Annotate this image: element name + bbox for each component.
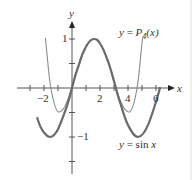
x-tick-label-neg2: −2 [37, 93, 49, 104]
y-axis-arrow-icon [69, 21, 75, 28]
x-tick-label-4: 4 [125, 93, 131, 104]
x-axis-label: x [177, 83, 182, 94]
sin-annotation: y = sin x [119, 139, 156, 150]
sin-var: x [151, 138, 156, 150]
right-edge [190, 0, 192, 180]
p4-annotation: y = P4(x) [119, 27, 159, 41]
y-axis-label: y [69, 8, 74, 19]
y-tick-label-neg1: −1 [77, 131, 89, 142]
chart-canvas [0, 0, 192, 180]
x-tick-label-2: 2 [97, 93, 103, 104]
p4-arg: (x) [146, 26, 158, 38]
x-tick-label-6: 6 [153, 93, 159, 104]
x-axis-arrow-icon [168, 85, 175, 91]
y-tick-label-1: 1 [62, 33, 68, 44]
sin-eq: = sin [124, 138, 151, 150]
p4-eq: = [124, 26, 136, 38]
